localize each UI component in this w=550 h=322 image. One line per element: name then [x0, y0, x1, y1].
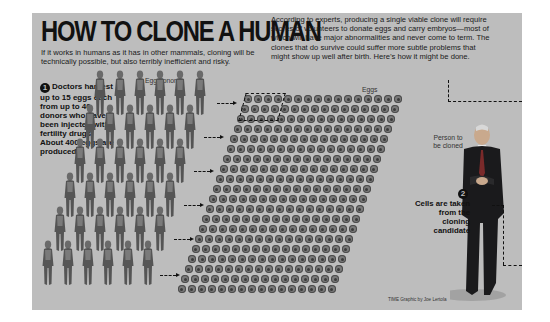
egg-cell-icon: [218, 285, 226, 293]
egg-cell-icon: [350, 165, 358, 173]
egg-cell-icon: [244, 125, 252, 133]
egg-cell-icon: [310, 165, 318, 173]
egg-cell-icon: [260, 165, 268, 173]
dashed-connector-cells-vertical: [503, 205, 504, 265]
egg-cell-icon: [336, 175, 344, 183]
egg-cell-icon: [322, 215, 330, 223]
egg-cell-icon: [299, 195, 307, 203]
egg-cell-icon: [346, 175, 354, 183]
egg-cell-icon: [330, 165, 338, 173]
egg-cell-icon: [351, 105, 359, 113]
egg-cell-icon: [220, 165, 228, 173]
egg-cell-icon: [253, 185, 261, 193]
egg-cell-icon: [265, 235, 273, 243]
egg-cell-icon: [241, 275, 249, 283]
egg-cell-icon: [199, 225, 207, 233]
egg-cell-icon: [253, 155, 261, 163]
egg-cell-icon: [201, 275, 209, 283]
egg-cell-icon: [357, 115, 365, 123]
egg-cell-icon: [208, 255, 216, 263]
egg-cell-icon: [233, 185, 241, 193]
egg-cell-icon: [267, 145, 275, 153]
egg-cell-icon: [319, 225, 327, 233]
egg-cell-icon: [259, 195, 267, 203]
egg-cell-icon: [343, 155, 351, 163]
egg-cell-icon: [374, 125, 382, 133]
egg-cell-icon: [342, 245, 350, 253]
egg-cell-icon: [340, 135, 348, 143]
egg-cell-icon: [309, 195, 317, 203]
egg-cell-icon: [315, 235, 323, 243]
egg-cell-icon: [209, 195, 217, 203]
egg-cell-icon: [188, 255, 196, 263]
egg-cell-icon: [250, 135, 258, 143]
egg-cell-icon: [300, 135, 308, 143]
egg-cell-icon: [222, 245, 230, 253]
egg-cell-icon: [229, 195, 237, 203]
egg-cell-icon: [307, 115, 315, 123]
egg-cell-icon: [225, 235, 233, 243]
egg-cell-icon: [296, 175, 304, 183]
egg-cell-icon: [353, 185, 361, 193]
dashed-arrow-icon: [174, 239, 190, 240]
egg-cell-icon: [252, 245, 260, 253]
egg-cell-icon: [198, 285, 206, 293]
egg-cell-icon: [363, 155, 371, 163]
egg-cell-icon: [283, 185, 291, 193]
egg-cell-icon: [284, 125, 292, 133]
egg-cell-icon: [249, 225, 257, 233]
egg-cell-icon: [263, 155, 271, 163]
egg-cell-icon: [306, 175, 314, 183]
egg-cell-icon: [218, 255, 226, 263]
egg-cell-icon: [273, 185, 281, 193]
egg-cell-icon: [252, 215, 260, 223]
egg-cell-icon: [185, 265, 193, 273]
egg-cell-icon: [222, 215, 230, 223]
egg-cell-icon: [301, 105, 309, 113]
egg-cell-icon: [278, 285, 286, 293]
egg-cell-icon: [320, 135, 328, 143]
egg-cell-icon: [305, 235, 313, 243]
egg-cell-icon: [339, 225, 347, 233]
egg-cell-icon: [263, 185, 271, 193]
egg-cell-icon: [334, 95, 342, 103]
egg-cell-icon: [221, 275, 229, 283]
egg-cell-icon: [305, 265, 313, 273]
egg-cell-icon: [256, 175, 264, 183]
egg-cell-icon: [271, 275, 279, 283]
egg-cell-icon: [292, 245, 300, 253]
egg-cell-icon: [381, 105, 389, 113]
egg-cell-icon: [323, 185, 331, 193]
egg-cell-icon: [361, 105, 369, 113]
egg-cell-icon: [328, 255, 336, 263]
egg-cell-icon: [260, 135, 268, 143]
egg-cell-icon: [329, 225, 337, 233]
egg-cell-icon: [265, 265, 273, 273]
egg-cell-icon: [195, 235, 203, 243]
subtitle: If it works in humans as it has in other…: [41, 48, 281, 66]
egg-cell-icon: [250, 165, 258, 173]
graphic-credit: TIME Graphic by Joe Lertola: [388, 297, 446, 302]
egg-donor-figure-icon: [154, 206, 166, 252]
egg-cell-icon: [279, 195, 287, 203]
egg-cell-icon: [370, 135, 378, 143]
egg-cell-icon: [384, 125, 392, 133]
egg-cell-icon: [314, 125, 322, 133]
egg-cell-icon: [206, 205, 214, 213]
egg-cell-icon: [318, 285, 326, 293]
egg-cell-icon: [316, 175, 324, 183]
egg-cell-icon: [287, 115, 295, 123]
egg-cell-icon: [286, 175, 294, 183]
egg-cell-icon: [242, 245, 250, 253]
egg-cell-icon: [304, 95, 312, 103]
egg-cell-icon: [211, 275, 219, 283]
egg-cell-icon: [350, 135, 358, 143]
egg-cell-icon: [230, 135, 238, 143]
egg-cell-icon: [337, 115, 345, 123]
egg-cell-icon: [266, 175, 274, 183]
egg-cell-icon: [335, 265, 343, 273]
egg-cell-icon: [327, 145, 335, 153]
egg-donor-figure-icon: [42, 240, 54, 286]
egg-cell-icon: [343, 185, 351, 193]
egg-cell-icon: [377, 115, 385, 123]
